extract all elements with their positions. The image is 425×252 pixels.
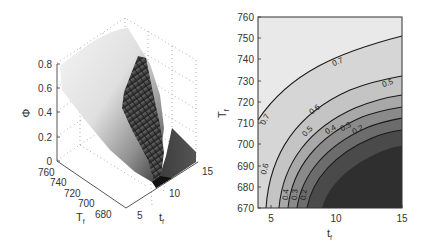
y-tick: 680	[237, 182, 254, 193]
y-tick: 720	[237, 97, 254, 108]
contour-plot: 0.7 0.7 0.6 0.6 0.5 0.5 0.4 0.4 0.3 0.3 …	[216, 12, 408, 241]
z-tick-labels: 0.8 0.6 0.4 0.2 0	[38, 59, 52, 167]
contour-y-axis-label: Tf	[216, 109, 230, 118]
z-tick: 0.8	[38, 59, 52, 70]
y-tick: 740	[237, 54, 254, 65]
y-tick: 700	[78, 198, 95, 209]
x-tick: 5	[268, 213, 274, 224]
y-tick: 680	[95, 209, 112, 220]
figure: 0.8 0.6 0.4 0.2 0 Φ 760 740 720 700 680 …	[0, 0, 425, 252]
y-tick: 730	[237, 76, 254, 87]
y-tick: 670	[237, 203, 254, 214]
x-tick: 5	[137, 210, 143, 221]
x-axis-label-3d: tf	[159, 211, 164, 225]
y-tick: 710	[237, 118, 254, 129]
contour-label: 0.2	[299, 188, 309, 200]
x-tick: 15	[396, 213, 408, 224]
surface-plot: 0.8 0.6 0.4 0.2 0 Φ 760 740 720 700 680 …	[20, 18, 214, 225]
y-tick: 690	[237, 161, 254, 172]
y-tick: 700	[237, 139, 254, 150]
z-tick: 0.6	[38, 83, 52, 94]
z-tick: 0	[46, 156, 52, 167]
y-tick: 740	[50, 177, 67, 188]
y-tick: 760	[237, 12, 254, 23]
z-axis-label: Φ	[20, 108, 32, 117]
x-tick: 10	[330, 213, 342, 224]
y-axis-label-3d: Tf	[76, 211, 85, 225]
z-tick: 0.4	[38, 107, 52, 118]
z-tick: 0.2	[38, 132, 52, 143]
x-tick: 15	[202, 166, 214, 177]
x-tick: 10	[169, 188, 181, 199]
y-tick: 750	[237, 33, 254, 44]
contour-x-tick-labels: 5 10 15	[268, 213, 408, 224]
contour-y-tick-labels: 670 680 690 700 710 720 730 740 750 760	[237, 12, 254, 214]
contour-x-axis-label: tf	[327, 227, 332, 241]
